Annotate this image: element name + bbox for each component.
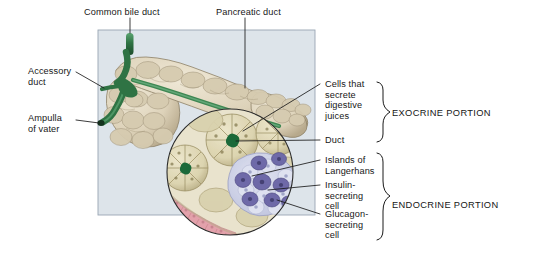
label-ampulla-of-vater: Ampulla of vater	[28, 113, 62, 134]
label-glucagon-secreting-cell: Glucagon- secreting cell	[325, 209, 368, 241]
label-duct: Duct	[325, 135, 344, 146]
label-islands-of-langerhans: Islands of Langerhans	[325, 155, 375, 176]
label-cells-secrete-digestive-juices: Cells that secrete digestive juices	[325, 79, 364, 121]
pancreas-diagram: Common bile duct Pancreatic duct Accesso…	[0, 0, 536, 277]
label-common-bile-duct: Common bile duct	[84, 7, 160, 18]
label-exocrine-portion: EXOCRINE PORTION	[392, 108, 491, 118]
diagram-artwork	[0, 0, 536, 277]
label-pancreatic-duct: Pancreatic duct	[216, 7, 281, 18]
label-accessory-duct: Accessory duct	[28, 66, 71, 87]
label-insulin-secreting-cell: Insulin- secreting cell	[325, 180, 363, 212]
label-endocrine-portion: ENDOCRINE PORTION	[392, 200, 499, 210]
portion-brackets	[377, 82, 390, 240]
